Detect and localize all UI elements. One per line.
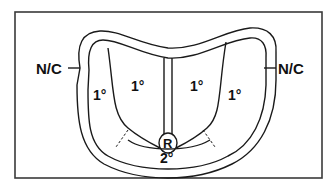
diagram-canvas: N/C N/C 1° 1° 1° 1° R 2° bbox=[0, 0, 332, 195]
left-inner-primary-label: 1° bbox=[131, 78, 144, 94]
right-dashed-separator bbox=[203, 130, 215, 147]
right-lateral-primary-label: 1° bbox=[228, 87, 241, 103]
r-label: R bbox=[163, 136, 173, 151]
secondary-label: 2° bbox=[160, 150, 173, 166]
left-nc-label: N/C bbox=[36, 60, 62, 77]
right-nc-label: N/C bbox=[278, 60, 304, 77]
left-dashed-separator bbox=[116, 130, 128, 147]
central-stalk bbox=[164, 58, 172, 134]
left-lateral-primary-label: 1° bbox=[93, 87, 106, 103]
right-inner-primary-label: 1° bbox=[190, 78, 203, 94]
